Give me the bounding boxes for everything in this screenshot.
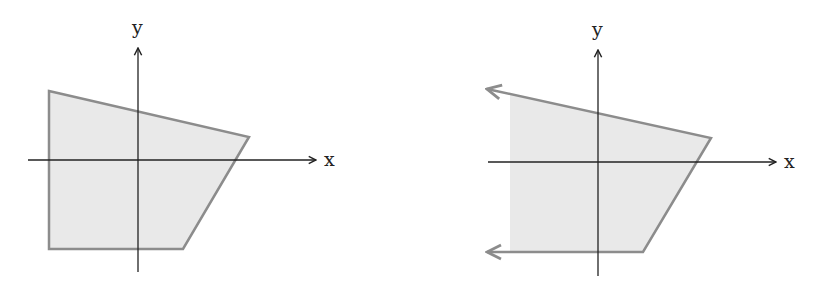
diagram-canvas: x y x y (0, 0, 821, 289)
bounded-region (49, 91, 249, 249)
y-axis-label: y (131, 16, 143, 38)
right-panel: x y (487, 18, 795, 276)
x-axis-label: x (324, 148, 335, 170)
unbounded-region-fill (510, 94, 711, 252)
diagram-figure: x y x y (0, 0, 821, 289)
left-panel: x y (28, 16, 335, 272)
x-axis-label: x (784, 150, 795, 172)
y-axis-label: y (591, 18, 603, 40)
